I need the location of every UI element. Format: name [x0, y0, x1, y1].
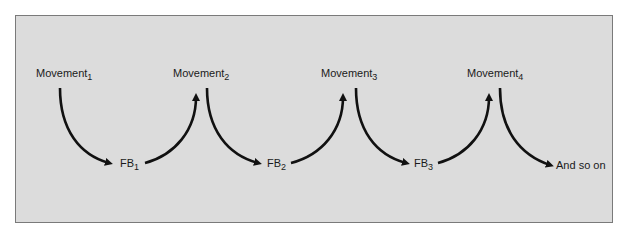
node-and-so-on: And so on	[556, 159, 606, 171]
node-movement-2: Movement2	[173, 67, 229, 82]
node-movement-3: Movement3	[321, 67, 377, 82]
node-movement-1: Movement1	[36, 67, 92, 82]
arrow-m3-fb3	[356, 88, 406, 163]
arrow-fb1-m2	[145, 97, 196, 163]
node-fb-3: FB3	[414, 157, 433, 172]
arrow-m1-fb1	[60, 88, 109, 163]
arrows-layer	[0, 0, 631, 237]
node-fb-2: FB2	[267, 157, 286, 172]
arrow-fb2-m3	[291, 97, 343, 163]
node-movement-4: Movement4	[467, 67, 523, 82]
node-fb-1: FB1	[120, 157, 139, 172]
arrow-fb3-m4	[438, 97, 489, 163]
arrow-m4-end	[500, 88, 550, 165]
arrow-m2-fb2	[207, 88, 258, 163]
